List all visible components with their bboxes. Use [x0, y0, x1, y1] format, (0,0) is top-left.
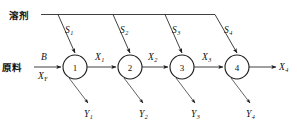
solvent-stream-label-3: S3 [172, 25, 180, 36]
extract-stream-label-1: Y1 [84, 109, 93, 120]
solvent-label: 溶剂 [9, 10, 29, 21]
extract-stream-label-2: Y2 [139, 109, 148, 120]
feed-label: 原料 [2, 62, 22, 73]
solvent-stream-label-2: S2 [120, 25, 128, 36]
diagram-canvas: 1 2 3 4 溶剂 原料 B XF S1 S2 S3 S4 X1 [0, 0, 297, 123]
extraction-flow-diagram: 1 2 3 4 溶剂 原料 B XF S1 S2 S3 S4 X1 [0, 0, 297, 123]
raffinate-stream-label-1: X1 [94, 52, 104, 63]
feed-composition-symbol: XF [37, 71, 48, 82]
raffinate-stream-label-4: X4 [278, 62, 288, 73]
extract-stream-label-3: Y3 [191, 109, 200, 120]
extract-outlet-arrow-3 [176, 78, 195, 103]
feed-flow-symbol: B [41, 52, 47, 62]
extract-stream-label-4: Y4 [246, 109, 255, 120]
extract-outlet-arrow-4 [231, 78, 250, 103]
stage-number-4: 4 [235, 63, 240, 73]
raffinate-stream-label-3: X3 [201, 52, 211, 63]
stage-number-3: 3 [180, 63, 185, 73]
stage-number-2: 2 [128, 63, 133, 73]
extract-outlet-arrow-1 [69, 78, 88, 103]
solvent-stream-label-1: S1 [65, 25, 73, 36]
raffinate-stream-label-2: X2 [147, 52, 157, 63]
stage-number-1: 1 [73, 63, 78, 73]
solvent-stream-label-4: S4 [224, 25, 232, 36]
extract-outlet-arrow-2 [124, 78, 143, 103]
